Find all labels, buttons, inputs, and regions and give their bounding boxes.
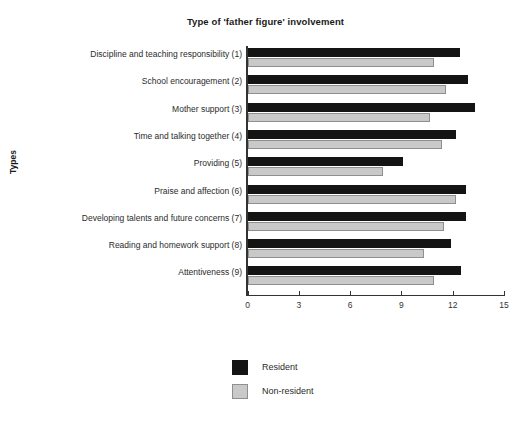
bar-resident bbox=[248, 266, 462, 275]
category-label: Developing talents and future concerns (… bbox=[12, 213, 242, 223]
x-tick-label: 6 bbox=[335, 300, 365, 310]
x-tick-label: 9 bbox=[386, 300, 416, 310]
plot-area: 03691215 bbox=[246, 46, 504, 296]
chart-title: Type of 'father figure' involvement bbox=[0, 16, 531, 27]
bar-nonresident bbox=[248, 195, 457, 204]
bar-resident bbox=[248, 239, 451, 248]
x-tick-label: 0 bbox=[233, 300, 263, 310]
bar-resident bbox=[248, 75, 469, 84]
bar-resident bbox=[248, 157, 404, 166]
bar-nonresident bbox=[248, 249, 424, 258]
bar-resident bbox=[248, 103, 475, 112]
bar-nonresident bbox=[248, 58, 434, 67]
bar-resident bbox=[248, 212, 467, 221]
x-tick-label: 3 bbox=[284, 300, 314, 310]
category-label: School encouragement (2) bbox=[12, 76, 242, 86]
legend-swatch-resident bbox=[232, 360, 248, 375]
category-label: Mother support (3) bbox=[12, 104, 242, 114]
category-label: Providing (5) bbox=[12, 158, 242, 168]
x-tick-label: 12 bbox=[438, 300, 468, 310]
x-tick-mark bbox=[401, 291, 402, 296]
x-axis-line bbox=[246, 295, 504, 297]
legend-item: Non-resident bbox=[232, 379, 314, 403]
x-tick-mark bbox=[504, 291, 505, 296]
category-label: Reading and homework support (8) bbox=[12, 240, 242, 250]
bar-nonresident bbox=[248, 140, 443, 149]
x-tick-label: 15 bbox=[489, 300, 519, 310]
bar-resident bbox=[248, 48, 460, 57]
x-tick-mark bbox=[350, 291, 351, 296]
bar-nonresident bbox=[248, 276, 434, 285]
category-label: Discipline and teaching responsibility (… bbox=[12, 49, 242, 59]
bar-nonresident bbox=[248, 167, 383, 176]
bar-resident bbox=[248, 185, 467, 194]
bar-nonresident bbox=[248, 222, 445, 231]
category-label: Praise and affection (6) bbox=[12, 186, 242, 196]
x-tick-mark bbox=[453, 291, 454, 296]
bar-chart: Type of 'father figure' involvement Type… bbox=[0, 0, 531, 423]
legend-label: Non-resident bbox=[262, 386, 314, 396]
category-label: Attentiveness (9) bbox=[12, 267, 242, 277]
x-tick-mark bbox=[248, 291, 249, 296]
bar-resident bbox=[248, 130, 457, 139]
category-label: Time and talking together (4) bbox=[12, 131, 242, 141]
legend-swatch-nonresident bbox=[232, 384, 248, 399]
x-tick-mark bbox=[299, 291, 300, 296]
chart-legend: ResidentNon-resident bbox=[232, 355, 314, 403]
bar-nonresident bbox=[248, 85, 446, 94]
legend-label: Resident bbox=[262, 362, 298, 372]
bar-nonresident bbox=[248, 113, 431, 122]
legend-item: Resident bbox=[232, 355, 314, 379]
